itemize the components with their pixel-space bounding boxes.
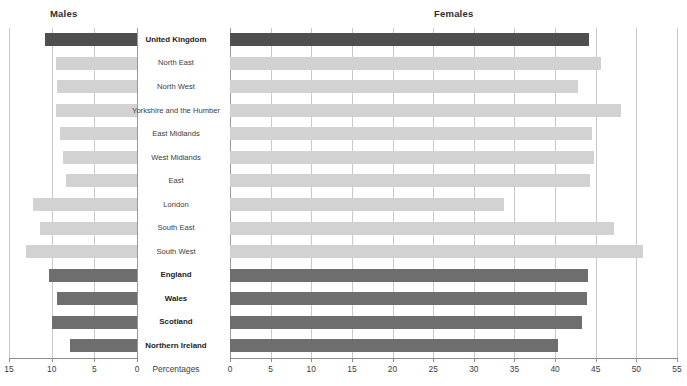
females-tick-10 xyxy=(311,358,312,362)
female-bar xyxy=(230,245,643,258)
females-tick-50 xyxy=(636,358,637,362)
female-bar xyxy=(230,151,594,164)
table-row xyxy=(230,99,687,123)
females-tick-0 xyxy=(230,358,231,362)
male-bar xyxy=(56,57,137,70)
male-bar xyxy=(40,222,137,235)
table-row xyxy=(0,311,137,335)
male-bar xyxy=(60,127,137,140)
table-row xyxy=(0,28,137,52)
female-bar xyxy=(230,127,592,140)
category-label: London xyxy=(131,193,221,217)
category-label: England xyxy=(131,264,221,288)
male-bar xyxy=(33,198,137,211)
table-row xyxy=(230,264,687,288)
females-tick-40 xyxy=(555,358,556,362)
female-bar xyxy=(230,174,590,187)
male-bar xyxy=(45,33,137,46)
female-bar xyxy=(230,57,601,70)
table-row xyxy=(0,75,137,99)
females-tick-label-50: 50 xyxy=(632,364,641,374)
category-label: East xyxy=(131,169,221,193)
category-label: North East xyxy=(131,52,221,76)
females-plot-area xyxy=(215,28,687,358)
back-to-back-bar-chart: Males Females United KingdomNorth EastNo… xyxy=(0,0,687,386)
female-bar xyxy=(230,222,614,235)
table-row xyxy=(0,52,137,76)
females-tick-label-5: 5 xyxy=(268,364,273,374)
table-row xyxy=(230,334,687,358)
table-row xyxy=(230,52,687,76)
females-tick-label-15: 15 xyxy=(347,364,356,374)
table-row xyxy=(0,193,137,217)
females-tick-label-20: 20 xyxy=(388,364,397,374)
table-row xyxy=(0,334,137,358)
male-bar xyxy=(57,292,137,305)
table-row xyxy=(230,146,687,170)
females-tick-5 xyxy=(271,358,272,362)
female-bar xyxy=(230,292,587,305)
females-tick-label-30: 30 xyxy=(469,364,478,374)
table-row xyxy=(0,217,137,241)
table-row xyxy=(230,28,687,52)
table-row xyxy=(230,169,687,193)
males-tick-label-15: 15 xyxy=(4,364,13,374)
category-label: Scotland xyxy=(131,311,221,335)
table-row xyxy=(230,217,687,241)
table-row xyxy=(230,240,687,264)
category-label: Northern Ireland xyxy=(131,334,221,358)
males-tick-0 xyxy=(137,358,138,362)
females-tick-35 xyxy=(514,358,515,362)
males-tick-5 xyxy=(94,358,95,362)
males-tick-15 xyxy=(9,358,10,362)
category-label: North West xyxy=(131,75,221,99)
category-label: Wales xyxy=(131,287,221,311)
females-axis-line xyxy=(230,358,677,359)
males-tick-label-0: 0 xyxy=(135,364,140,374)
male-bar xyxy=(66,174,137,187)
females-tick-label-0: 0 xyxy=(228,364,233,374)
table-row xyxy=(0,146,137,170)
table-row xyxy=(230,311,687,335)
females-tick-25 xyxy=(433,358,434,362)
females-tick-label-45: 45 xyxy=(591,364,600,374)
table-row xyxy=(230,193,687,217)
female-bar xyxy=(230,104,621,117)
females-panel-title: Females xyxy=(434,8,473,19)
table-row xyxy=(0,240,137,264)
female-bar xyxy=(230,33,589,46)
females-tick-45 xyxy=(596,358,597,362)
female-bar xyxy=(230,80,578,93)
table-row xyxy=(230,75,687,99)
table-row xyxy=(0,99,137,123)
females-bar-rows xyxy=(215,28,687,358)
female-bar xyxy=(230,198,504,211)
table-row xyxy=(0,264,137,288)
males-tick-label-5: 5 xyxy=(92,364,97,374)
males-tick-label-10: 10 xyxy=(47,364,56,374)
table-row xyxy=(0,287,137,311)
female-bar xyxy=(230,339,558,352)
females-tick-55 xyxy=(677,358,678,362)
table-row xyxy=(230,122,687,146)
table-row xyxy=(0,169,137,193)
category-label: West Midlands xyxy=(131,146,221,170)
females-tick-label-35: 35 xyxy=(510,364,519,374)
females-tick-label-25: 25 xyxy=(429,364,438,374)
males-panel-title: Males xyxy=(50,8,77,19)
male-bar xyxy=(63,151,137,164)
table-row xyxy=(230,287,687,311)
females-tick-15 xyxy=(352,358,353,362)
male-bar xyxy=(52,316,137,329)
category-label: Yorkshire and the Humber xyxy=(131,99,221,123)
females-tick-label-55: 55 xyxy=(672,364,681,374)
table-row xyxy=(0,122,137,146)
male-bar xyxy=(26,245,137,258)
category-label: South West xyxy=(131,240,221,264)
category-label: United Kingdom xyxy=(131,28,221,52)
male-bar xyxy=(49,269,137,282)
category-label: South East xyxy=(131,217,221,241)
females-tick-label-40: 40 xyxy=(550,364,559,374)
females-tick-20 xyxy=(393,358,394,362)
females-tick-label-10: 10 xyxy=(307,364,316,374)
